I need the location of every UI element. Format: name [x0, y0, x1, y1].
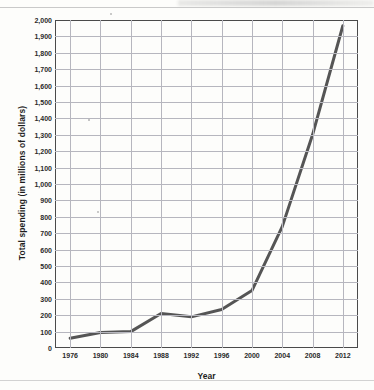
- x-axis-tick-label: 1992: [184, 352, 200, 359]
- y-axis-tick-label: 800: [8, 213, 52, 220]
- y-axis-tick-label: 1,100: [8, 164, 52, 171]
- gridline-vertical: [131, 20, 132, 348]
- gridline-vertical: [282, 20, 283, 348]
- x-axis-tick-label: 2000: [244, 352, 260, 359]
- y-axis-tick-label: 700: [8, 230, 52, 237]
- x-axis-title: Year: [55, 371, 358, 381]
- y-axis-tick-label: 200: [8, 312, 52, 319]
- gridline-vertical: [343, 20, 344, 348]
- x-axis-tick-label: 1976: [62, 352, 78, 359]
- plot-area: [55, 20, 358, 348]
- x-axis-tick-label: 1996: [214, 352, 230, 359]
- y-axis-tick-label: 1,000: [8, 181, 52, 188]
- gridline-vertical: [252, 20, 253, 348]
- y-axis-tick-label: 0: [8, 345, 52, 352]
- gridline-vertical: [313, 20, 314, 348]
- y-axis-tick-labels: 01002003004005006007008009001,0001,1001,…: [8, 0, 52, 390]
- gridline-vertical: [191, 20, 192, 348]
- gridline-vertical: [70, 20, 71, 348]
- y-axis-tick-label: 300: [8, 295, 52, 302]
- x-axis-tick-label: 1980: [93, 352, 109, 359]
- line-chart: Total spending (in millions of dollars) …: [0, 0, 374, 390]
- y-axis-tick-label: 1,800: [8, 49, 52, 56]
- y-axis-tick-label: 500: [8, 263, 52, 270]
- y-axis-tick-label: 2,000: [8, 17, 52, 24]
- gridline-vertical: [161, 20, 162, 348]
- y-axis-tick-label: 900: [8, 197, 52, 204]
- y-axis-tick-label: 1,700: [8, 66, 52, 73]
- x-axis-tick-label: 2012: [335, 352, 351, 359]
- x-axis-tick-label: 2008: [305, 352, 321, 359]
- y-axis-tick-label: 1,900: [8, 33, 52, 40]
- y-axis-tick-label: 1,300: [8, 131, 52, 138]
- y-axis-tick-label: 100: [8, 328, 52, 335]
- gridline-vertical: [100, 20, 101, 348]
- data-line: [70, 26, 343, 338]
- x-axis-tick-label: 2004: [274, 352, 290, 359]
- y-axis-tick-label: 400: [8, 279, 52, 286]
- y-axis-tick-label: 1,200: [8, 148, 52, 155]
- y-axis-tick-label: 1,600: [8, 82, 52, 89]
- scanned-chart-page: Total spending (in millions of dollars) …: [0, 0, 374, 390]
- x-axis-tick-label: 1988: [153, 352, 169, 359]
- y-axis-tick-label: 1,400: [8, 115, 52, 122]
- y-axis-tick-label: 1,500: [8, 99, 52, 106]
- x-axis-tick-label: 1984: [123, 352, 139, 359]
- y-axis-tick-label: 600: [8, 246, 52, 253]
- gridline-vertical: [222, 20, 223, 348]
